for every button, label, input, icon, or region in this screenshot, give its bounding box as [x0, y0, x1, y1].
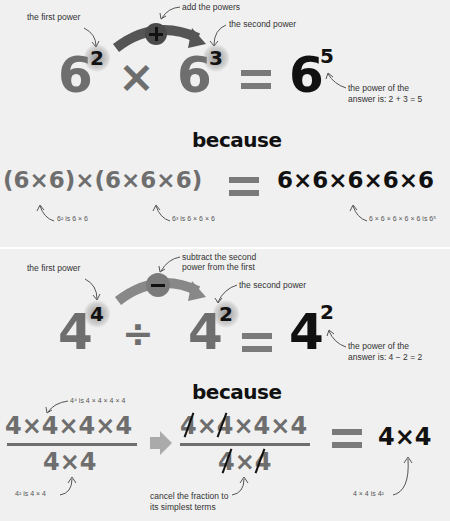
division-panel: the first power subtract the second powe… — [0, 249, 450, 521]
note-result: 4 × 4 is 4² — [353, 490, 384, 497]
note-6-squared: 6² is 6 × 6 — [57, 215, 88, 222]
pointer-arrow-icon — [0, 249, 450, 521]
pointer-arrow-icon — [0, 0, 450, 250]
multiplication-panel: the first power add the powers the secon… — [0, 0, 450, 247]
note-6-fifth: 6 × 6 × 6 × 6 × 6 is 6⁵ — [369, 215, 436, 222]
note-6-cubed: 6³ is 6 × 6 × 6 — [172, 215, 215, 222]
